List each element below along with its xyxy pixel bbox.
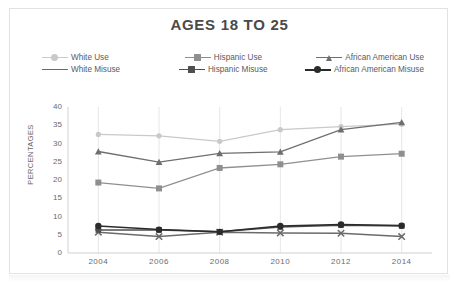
marker-hispanic-use xyxy=(399,151,405,157)
marker-african-american-misuse xyxy=(398,222,404,228)
marker-white-use xyxy=(217,139,222,144)
marker-hispanic-use xyxy=(277,161,283,167)
marker-african-american-misuse xyxy=(338,221,344,227)
x-tick-label: 2010 xyxy=(250,257,310,266)
y-tick-label: 10 xyxy=(36,212,62,221)
x-tick-label: 2006 xyxy=(129,257,189,266)
x-tick-label: 2012 xyxy=(311,257,371,266)
y-tick-label: 35 xyxy=(36,120,62,129)
chart-plot-area: PERCENTAGES 0510152025303540 20042006200… xyxy=(0,0,459,288)
marker-hispanic-use xyxy=(338,154,344,160)
marker-hispanic-use xyxy=(95,180,101,186)
y-tick-label: 30 xyxy=(36,139,62,148)
marker-african-american-misuse xyxy=(277,223,283,229)
y-tick-label: 15 xyxy=(36,193,62,202)
series-line-white-misuse xyxy=(98,232,401,236)
marker-african-american-misuse xyxy=(95,223,101,229)
plot-svg xyxy=(0,0,459,288)
card-shadow xyxy=(9,275,450,282)
marker-white-use xyxy=(96,132,101,137)
x-tick-label: 2004 xyxy=(68,257,128,266)
marker-hispanic-use xyxy=(217,165,223,171)
y-tick-label: 5 xyxy=(36,230,62,239)
y-tick-label: 40 xyxy=(36,102,62,111)
y-tick-label: 20 xyxy=(36,175,62,184)
x-tick-label: 2008 xyxy=(190,257,250,266)
series-line-white-use xyxy=(98,124,401,141)
y-tick-label: 25 xyxy=(36,157,62,166)
y-tick-label: 0 xyxy=(36,248,62,257)
marker-african-american-misuse xyxy=(216,229,222,235)
marker-african-american-misuse xyxy=(156,226,162,232)
marker-white-use xyxy=(156,133,161,138)
marker-hispanic-use xyxy=(156,185,162,191)
marker-white-use xyxy=(278,127,283,132)
x-tick-label: 2014 xyxy=(372,257,432,266)
